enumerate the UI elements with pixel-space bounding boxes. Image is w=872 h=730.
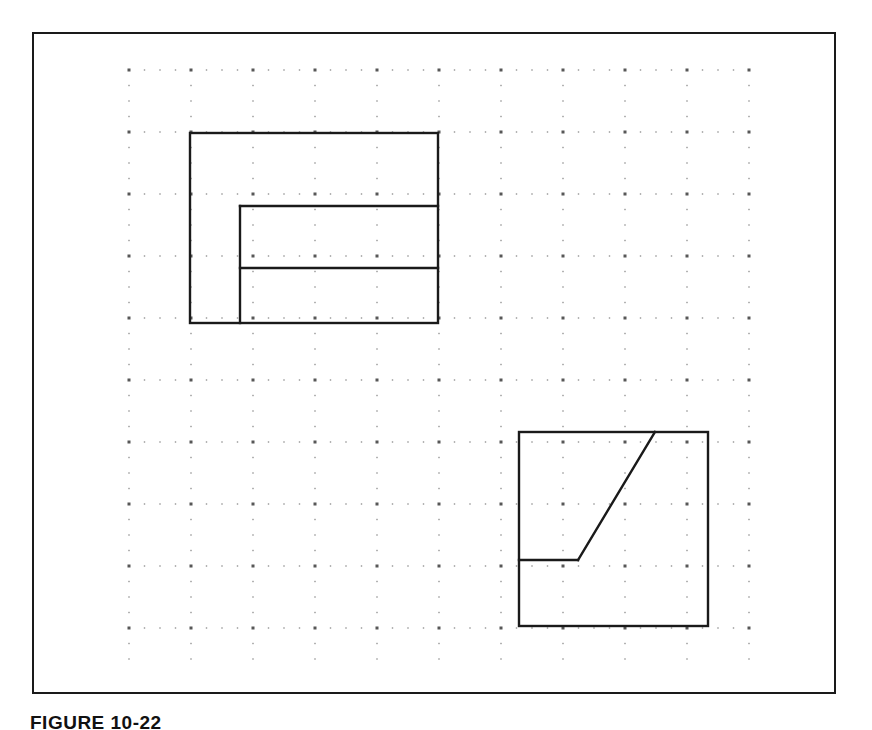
figure-page: FIGURE 10-22 [0, 0, 872, 730]
figure-border-frame [32, 32, 836, 694]
figure-caption: FIGURE 10-22 [30, 712, 162, 730]
